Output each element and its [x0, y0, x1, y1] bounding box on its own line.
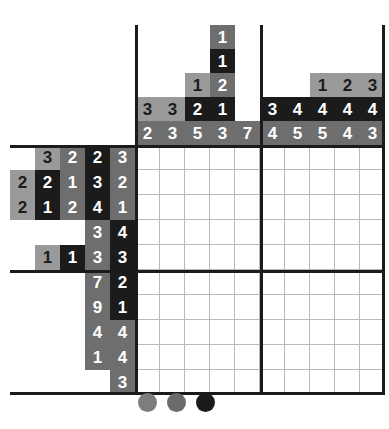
grid-cell-r4-c8[interactable] [310, 220, 335, 245]
column-clue-c2-r2 [160, 49, 185, 73]
grid-cell-r4-c6[interactable] [260, 220, 285, 245]
grid-cell-r4-c4[interactable] [210, 220, 235, 245]
column-clue-c3-r5: 5 [185, 121, 210, 145]
grid-cell-r1-c8[interactable] [310, 145, 335, 170]
grid-cell-r3-c2[interactable] [160, 195, 185, 220]
grid-cell-r2-c2[interactable] [160, 170, 185, 195]
grid-cell-r6-c9[interactable] [335, 270, 360, 295]
column-clue-c6-r1 [260, 25, 285, 49]
grid-cell-r4-c5[interactable] [235, 220, 260, 245]
grid-cell-r3-c5[interactable] [235, 195, 260, 220]
grid-cell-r4-c2[interactable] [160, 220, 185, 245]
row-clue-r8-c4: 4 [85, 320, 110, 345]
grid-cell-r6-c4[interactable] [210, 270, 235, 295]
grid-cell-r4-c7[interactable] [285, 220, 310, 245]
grid-cell-r9-c9[interactable] [335, 345, 360, 370]
column-clue-c8-r1 [310, 25, 335, 49]
grid-cell-r9-c7[interactable] [285, 345, 310, 370]
grid-cell-r2-c1[interactable] [135, 170, 160, 195]
grid-cell-r6-c6[interactable] [260, 270, 285, 295]
grid-cell-r5-c8[interactable] [310, 245, 335, 270]
grid-cell-r6-c8[interactable] [310, 270, 335, 295]
grid-cell-r5-c7[interactable] [285, 245, 310, 270]
grid-cell-r9-c3[interactable] [185, 345, 210, 370]
grid-cell-r6-c1[interactable] [135, 270, 160, 295]
grid-cell-r8-c4[interactable] [210, 320, 235, 345]
grid-cell-r1-c9[interactable] [335, 145, 360, 170]
grid-cell-r3-c4[interactable] [210, 195, 235, 220]
grid-cell-r9-c4[interactable] [210, 345, 235, 370]
grid-cell-r9-c6[interactable] [260, 345, 285, 370]
row-clue-r3-c3: 2 [60, 195, 85, 220]
grid-cell-r7-c1[interactable] [135, 295, 160, 320]
grid-cell-r3-c8[interactable] [310, 195, 335, 220]
grid-cell-r7-c6[interactable] [260, 295, 285, 320]
grid-cell-r6-c3[interactable] [185, 270, 210, 295]
grid-cell-r5-c6[interactable] [260, 245, 285, 270]
column-clue-c4-r2: 1 [210, 49, 235, 73]
grid-cell-r8-c3[interactable] [185, 320, 210, 345]
grid-cell-r9-c1[interactable] [135, 345, 160, 370]
grid-cell-r7-c2[interactable] [160, 295, 185, 320]
grid-cell-r8-c2[interactable] [160, 320, 185, 345]
grid-cell-r5-c4[interactable] [210, 245, 235, 270]
grid-cell-r8-c5[interactable] [235, 320, 260, 345]
dot-2[interactable] [167, 393, 186, 412]
grid-cell-r1-c7[interactable] [285, 145, 310, 170]
grid-cell-r6-c7[interactable] [285, 270, 310, 295]
grid-cell-r1-c3[interactable] [185, 145, 210, 170]
grid-cell-r3-c6[interactable] [260, 195, 285, 220]
grid-cell-r4-c1[interactable] [135, 220, 160, 245]
row-clue-r5-c1 [10, 245, 35, 270]
grid-cell-r2-c7[interactable] [285, 170, 310, 195]
grid-cell-r4-c9[interactable] [335, 220, 360, 245]
grid-cell-r6-c2[interactable] [160, 270, 185, 295]
grid-cell-r1-c5[interactable] [235, 145, 260, 170]
grid-cell-r7-c5[interactable] [235, 295, 260, 320]
row-clue-r7-c3 [60, 295, 85, 320]
grid-cell-r9-c2[interactable] [160, 345, 185, 370]
dot-3[interactable] [196, 393, 215, 412]
grid-cell-r1-c2[interactable] [160, 145, 185, 170]
grid-cell-r8-c8[interactable] [310, 320, 335, 345]
grid-cell-r3-c9[interactable] [335, 195, 360, 220]
grid-cell-r5-c2[interactable] [160, 245, 185, 270]
grid-cell-r1-c1[interactable] [135, 145, 160, 170]
grid-cell-r1-c6[interactable] [260, 145, 285, 170]
grid-cell-r2-c8[interactable] [310, 170, 335, 195]
grid-cell-r8-c7[interactable] [285, 320, 310, 345]
grid-cell-r5-c3[interactable] [185, 245, 210, 270]
grid-cell-r2-c3[interactable] [185, 170, 210, 195]
grid-cell-r6-c5[interactable] [235, 270, 260, 295]
grid-cell-r7-c9[interactable] [335, 295, 360, 320]
dot-1[interactable] [138, 393, 157, 412]
grid-cell-r3-c7[interactable] [285, 195, 310, 220]
grid-cell-r5-c1[interactable] [135, 245, 160, 270]
grid-cell-r7-c7[interactable] [285, 295, 310, 320]
row-clue-r8-c1 [10, 320, 35, 345]
grid-cell-r2-c9[interactable] [335, 170, 360, 195]
grid-cell-r8-c6[interactable] [260, 320, 285, 345]
grid-cell-r1-c4[interactable] [210, 145, 235, 170]
column-clue-c7-r3 [285, 73, 310, 97]
column-clue-c9-r3: 2 [335, 73, 360, 97]
grid-cell-r9-c8[interactable] [310, 345, 335, 370]
grid-cell-r5-c5[interactable] [235, 245, 260, 270]
row-clue-r7-c4: 9 [85, 295, 110, 320]
grid-cell-r7-c4[interactable] [210, 295, 235, 320]
column-clue-c5-r1 [235, 25, 260, 49]
grid-cell-r2-c5[interactable] [235, 170, 260, 195]
grid-cell-r2-c6[interactable] [260, 170, 285, 195]
grid-cell-r3-c3[interactable] [185, 195, 210, 220]
column-clue-c1-r5: 2 [135, 121, 160, 145]
grid-cell-r5-c9[interactable] [335, 245, 360, 270]
grid-cell-r2-c4[interactable] [210, 170, 235, 195]
grid-cell-r9-c5[interactable] [235, 345, 260, 370]
grid-cell-r7-c8[interactable] [310, 295, 335, 320]
grid-cell-r4-c3[interactable] [185, 220, 210, 245]
grid-cell-r7-c3[interactable] [185, 295, 210, 320]
grid-cell-r8-c1[interactable] [135, 320, 160, 345]
status-dots [138, 393, 215, 412]
grid-cell-r8-c9[interactable] [335, 320, 360, 345]
grid-cell-r3-c1[interactable] [135, 195, 160, 220]
